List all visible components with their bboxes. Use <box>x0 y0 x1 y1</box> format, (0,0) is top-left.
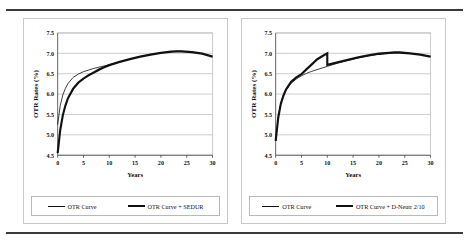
chart-panel-right: 4.55.05.56.06.57.07.5051015202530YearsOT… <box>241 18 446 224</box>
x-tick-label: 10 <box>106 159 112 166</box>
legend-item-otr-curve: OTR Curve <box>48 203 97 210</box>
y-tick-label: 5.0 <box>264 131 272 138</box>
x-tick-label: 10 <box>324 159 330 166</box>
legend-item-otr-curve: OTR Curve <box>262 203 311 210</box>
chart-panel-left: 4.55.05.56.06.57.07.5051015202530YearsOT… <box>23 18 228 224</box>
x-tick-label: 25 <box>184 159 190 166</box>
y-axis-title: OTR Rates (%) <box>251 70 259 118</box>
series-line-thin <box>58 51 213 124</box>
figure-panels: 4.55.05.56.06.57.07.5051015202530YearsOT… <box>0 18 469 226</box>
x-axis-title: Years <box>345 171 361 178</box>
y-tick-label: 6.5 <box>264 70 272 77</box>
legend-swatch-thin-icon <box>262 206 279 207</box>
legend-swatch-thick-icon <box>128 205 145 207</box>
y-tick-label: 6.0 <box>264 90 272 97</box>
legend-item-otr-curve-dneutr: OTR Curve + D-Neutr 2/10 <box>336 203 425 210</box>
top-horizontal-rule <box>6 9 463 11</box>
legend-right: OTR Curve OTR Curve + D-Neutr 2/10 <box>249 196 438 216</box>
y-tick-label: 4.5 <box>46 151 54 158</box>
x-tick-label: 5 <box>82 159 85 166</box>
legend-swatch-thick-icon <box>336 205 353 207</box>
bottom-horizontal-rule <box>6 232 463 234</box>
x-tick-label: 30 <box>428 159 434 166</box>
y-tick-label: 5.0 <box>46 131 54 138</box>
line-chart-right: 4.55.05.56.06.57.07.5051015202530YearsOT… <box>248 25 437 194</box>
y-tick-label: 5.5 <box>264 111 272 118</box>
y-tick-label: 6.5 <box>46 70 54 77</box>
plot-area-left: 4.55.05.56.06.57.07.5051015202530YearsOT… <box>30 25 219 194</box>
y-tick-label: 5.5 <box>46 111 54 118</box>
x-tick-label: 0 <box>274 159 277 166</box>
x-tick-label: 20 <box>376 159 382 166</box>
x-tick-label: 30 <box>210 159 216 166</box>
x-tick-label: 0 <box>56 159 59 166</box>
x-tick-label: 15 <box>132 159 138 166</box>
x-tick-label: 25 <box>402 159 408 166</box>
y-tick-label: 7.0 <box>264 49 272 56</box>
line-chart-left: 4.55.05.56.06.57.07.5051015202530YearsOT… <box>30 25 219 194</box>
y-tick-label: 7.0 <box>46 49 54 56</box>
legend-item-otr-curve-sedur: OTR Curve + SEDUR <box>128 203 204 210</box>
y-tick-label: 7.5 <box>264 29 272 36</box>
legend-swatch-thin-icon <box>48 206 65 207</box>
legend-label: OTR Curve + SEDUR <box>148 203 204 210</box>
legend-label: OTR Curve <box>68 203 97 210</box>
y-tick-label: 4.5 <box>264 151 272 158</box>
series-line-thick <box>58 51 213 153</box>
y-tick-label: 7.5 <box>46 29 54 36</box>
y-tick-label: 6.0 <box>46 90 54 97</box>
series-line-thick <box>276 53 431 141</box>
x-tick-label: 20 <box>158 159 164 166</box>
x-axis-title: Years <box>127 171 143 178</box>
legend-label: OTR Curve <box>282 203 311 210</box>
legend-left: OTR Curve OTR Curve + SEDUR <box>31 196 220 216</box>
plot-area-right: 4.55.05.56.06.57.07.5051015202530YearsOT… <box>248 25 437 194</box>
series-line-thin <box>276 53 431 141</box>
x-tick-label: 15 <box>350 159 356 166</box>
x-tick-label: 5 <box>300 159 303 166</box>
legend-label: OTR Curve + D-Neutr 2/10 <box>356 203 425 210</box>
y-axis-title: OTR Rates (%) <box>33 70 41 118</box>
